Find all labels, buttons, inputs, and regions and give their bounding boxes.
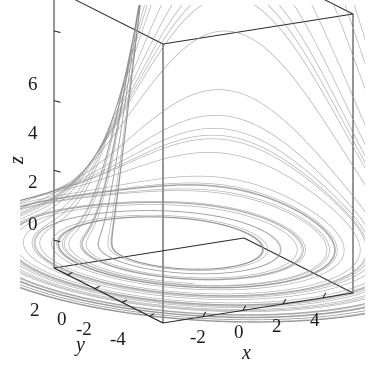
x-axis-title: x xyxy=(242,342,251,362)
x-tick-label-4: 4 xyxy=(310,310,320,329)
z-tick-label-6: 6 xyxy=(28,74,38,93)
z-tick-label-4: 4 xyxy=(28,123,38,142)
x-tick-label-0: 0 xyxy=(234,322,244,341)
z-tick-label-2: 2 xyxy=(28,172,38,191)
y-tick-label-0: 0 xyxy=(57,309,67,328)
x-tick-label-2: 2 xyxy=(272,316,282,335)
z-axis-title: z xyxy=(6,156,26,164)
y-tick-label-2: 2 xyxy=(30,300,40,319)
phase-portrait-figure: 0 2 4 6 2 0 -2 -4 -2 0 2 4 x y z xyxy=(0,0,371,370)
z-tick-label-0: 0 xyxy=(28,214,38,233)
y-axis-title: y xyxy=(76,334,85,354)
x-tick-label-m2: -2 xyxy=(190,327,206,346)
y-tick-label-m4: -4 xyxy=(110,329,126,348)
